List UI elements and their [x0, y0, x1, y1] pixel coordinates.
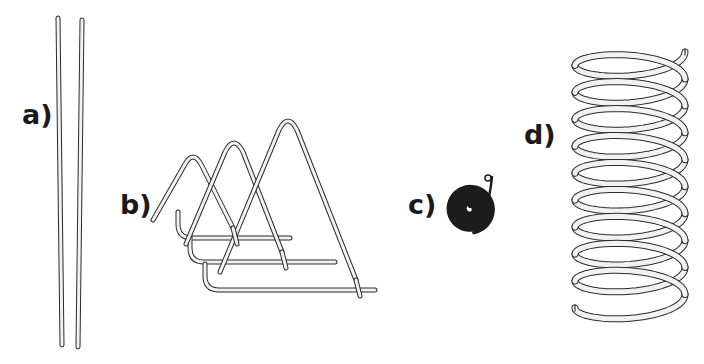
panel-label-a: a) — [22, 99, 53, 130]
panel-label-d: d) — [524, 119, 556, 150]
wire-configurations-figure: a) b) c) d) — [0, 0, 704, 364]
figure-canvas: a) b) c) d) — [0, 0, 704, 364]
panel-label-c: c) — [408, 189, 436, 220]
panel-label-b: b) — [120, 189, 152, 220]
